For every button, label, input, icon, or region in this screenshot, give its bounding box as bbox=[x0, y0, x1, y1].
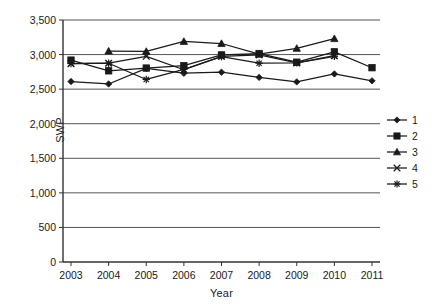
cross-marker-icon bbox=[386, 161, 408, 175]
legend: 12345 bbox=[386, 112, 430, 192]
legend-label: 3 bbox=[412, 147, 418, 158]
y-tick-label: 3,000 bbox=[30, 49, 56, 60]
y-tick-label: 2,000 bbox=[30, 118, 56, 129]
x-tick-label: 2003 bbox=[59, 270, 82, 281]
legend-item-5[interactable]: 5 bbox=[386, 176, 430, 192]
y-tick-label: 500 bbox=[38, 222, 56, 233]
x-tick-label: 2009 bbox=[285, 270, 308, 281]
x-tick-label: 2011 bbox=[361, 270, 384, 281]
diamond-marker-icon bbox=[386, 113, 408, 127]
legend-label: 1 bbox=[412, 115, 418, 126]
legend-label: 4 bbox=[412, 163, 418, 174]
plot-area: SWP 05001,0001,5002,0002,5003,0003,500 2… bbox=[63, 20, 380, 262]
x-tick-label: 2004 bbox=[97, 270, 120, 281]
triangle-marker-icon bbox=[386, 145, 408, 159]
x-tick-label: 2008 bbox=[247, 270, 270, 281]
asterisk-marker-icon bbox=[386, 177, 408, 191]
square-marker-icon bbox=[386, 129, 408, 143]
legend-item-3[interactable]: 3 bbox=[386, 144, 430, 160]
x-tick-label: 2010 bbox=[323, 270, 346, 281]
line-chart-figure: SWP 05001,0001,5002,0002,5003,0003,500 2… bbox=[0, 0, 432, 306]
legend-item-4[interactable]: 4 bbox=[386, 160, 430, 176]
series-1 bbox=[68, 65, 375, 87]
plot-canvas bbox=[63, 20, 380, 262]
legend-label: 5 bbox=[412, 179, 418, 190]
legend-label: 2 bbox=[412, 131, 418, 142]
y-tick-label: 1,000 bbox=[30, 188, 56, 199]
series-layer bbox=[67, 35, 375, 87]
legend-item-2[interactable]: 2 bbox=[386, 128, 430, 144]
y-tick-label: 2,500 bbox=[30, 84, 56, 95]
x-tick-label: 2005 bbox=[135, 270, 158, 281]
y-tick-label: 3,500 bbox=[30, 15, 56, 26]
x-axis-title: Year bbox=[210, 287, 233, 299]
x-tick-label: 2006 bbox=[172, 270, 195, 281]
y-tick-label: 1,500 bbox=[30, 153, 56, 164]
y-tick-label: 0 bbox=[50, 257, 56, 268]
x-tick-label: 2007 bbox=[210, 270, 233, 281]
legend-item-1[interactable]: 1 bbox=[386, 112, 430, 128]
